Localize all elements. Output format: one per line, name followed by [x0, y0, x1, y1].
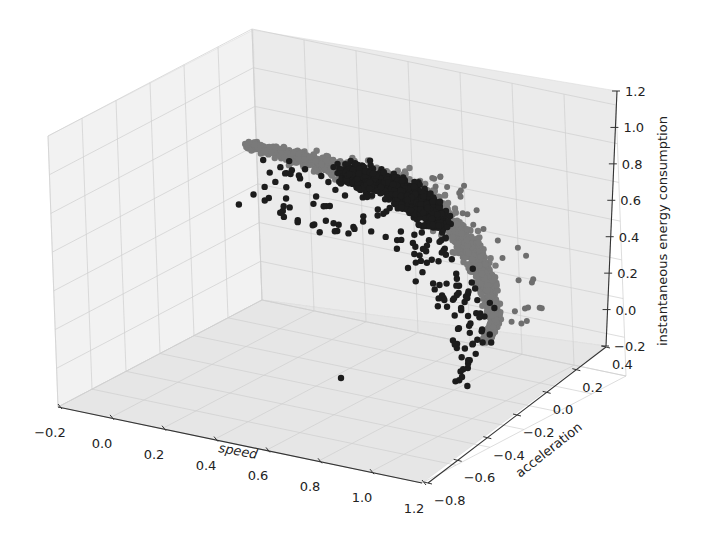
energy-axis-label: instantaneous energy consumption [655, 116, 670, 346]
tick-label: 0.6 [248, 468, 269, 483]
tick-label: 0.2 [617, 266, 638, 281]
tick-label: 0.4 [196, 458, 217, 473]
tick-label: 0.6 [620, 193, 641, 208]
tick-label: −0.2 [523, 425, 555, 440]
tick-label: −0.4 [493, 448, 525, 463]
tick-label: 0.2 [144, 447, 165, 462]
tick-label: 0.2 [582, 380, 603, 395]
tick-label: −0.2 [614, 339, 646, 354]
tick-label: 0.0 [92, 436, 113, 451]
tick-label: −0.2 [34, 425, 66, 440]
tick-label: 1.2 [625, 84, 646, 99]
tick-label: 0.0 [553, 402, 574, 417]
tick-label: −0.6 [464, 470, 496, 485]
tick-label: 1.0 [352, 490, 373, 505]
panes [48, 30, 617, 483]
tick-label: −0.8 [434, 493, 466, 508]
tick-label: 1.0 [623, 120, 644, 135]
tick-label: 0.0 [616, 303, 637, 318]
scatter-3d-chart: −0.20.00.20.40.60.81.01.2−0.8−0.6−0.4−0.… [0, 0, 709, 544]
tick-label: 0.8 [622, 157, 643, 172]
tick-label: 0.4 [612, 357, 633, 372]
tick-label: 0.8 [300, 479, 321, 494]
tick-label: 0.4 [619, 230, 640, 245]
tick-label: 1.2 [404, 501, 425, 516]
